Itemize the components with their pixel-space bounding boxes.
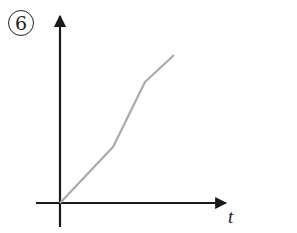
chart-canvas <box>0 0 297 233</box>
data-curve <box>60 55 174 203</box>
x-axis-label: t <box>228 206 233 228</box>
